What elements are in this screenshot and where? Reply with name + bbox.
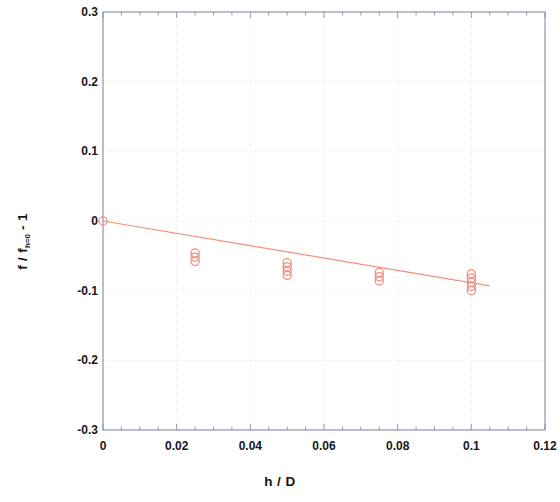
y-tick-label: 0.3 — [38, 5, 98, 19]
x-tick-label: 0.1 — [436, 439, 506, 453]
x-tick-label: 0.08 — [363, 439, 433, 453]
x-tick-label: 0 — [68, 439, 138, 453]
y-tick-label: 0.1 — [38, 144, 98, 158]
fit-line — [103, 221, 490, 286]
y-tick-label: -0.1 — [38, 284, 98, 298]
y-axis-title-subscript: h=0 — [23, 234, 32, 248]
y-tick-label: -0.2 — [38, 353, 98, 367]
x-axis-tick-labels: 00.020.040.060.080.10.12 — [0, 439, 560, 463]
y-tick-label: -0.3 — [38, 423, 98, 437]
y-axis-title-main: f / f — [15, 248, 30, 270]
x-tick-label: 0.06 — [289, 439, 359, 453]
chart-figure: 0.30.20.10-0.1-0.2-0.3 00.020.040.060.08… — [0, 0, 560, 502]
y-axis-title-tail: - 1 — [15, 213, 30, 234]
y-axis-tick-labels: 0.30.20.10-0.1-0.2-0.3 — [38, 0, 98, 502]
grid-lines — [103, 12, 545, 430]
y-tick-label: 0.2 — [38, 75, 98, 89]
y-tick-label: 0 — [38, 214, 98, 228]
x-axis-title: h / D — [0, 474, 560, 489]
y-axis-title: f / fh=0 - 1 — [15, 167, 32, 317]
data-series — [99, 217, 490, 295]
x-tick-label: 0.12 — [510, 439, 560, 453]
x-tick-label: 0.02 — [142, 439, 212, 453]
x-tick-label: 0.04 — [215, 439, 285, 453]
